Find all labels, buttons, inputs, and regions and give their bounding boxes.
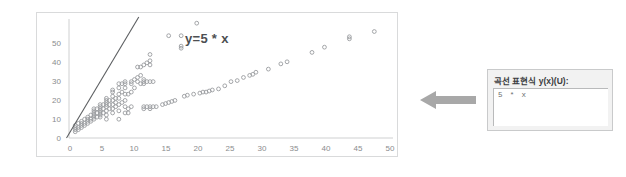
- curve-expression-panel: 곡선 표현식 y(x)(U): 5 * x: [487, 69, 613, 131]
- scatter-point: [195, 21, 199, 25]
- x-tick-label: 15: [156, 144, 176, 153]
- scatter-point: [229, 80, 233, 84]
- scatter-point: [192, 92, 196, 96]
- scatter-point: [266, 67, 270, 71]
- x-tick-label: 35: [284, 144, 304, 153]
- scatter-point: [167, 34, 171, 38]
- scatter-point: [129, 90, 133, 94]
- y-tick-label: 20: [43, 96, 61, 105]
- reference-line: [67, 17, 139, 138]
- x-tick-label: 5: [92, 144, 112, 153]
- x-tick-label: 0: [60, 144, 80, 153]
- scatter-point: [310, 51, 314, 55]
- scatter-point: [148, 63, 152, 67]
- scatter-point: [123, 86, 127, 90]
- y-tick-label: 50: [43, 39, 61, 48]
- scatter-point: [223, 84, 227, 88]
- curve-expression-label: 곡선 표현식 y(x)(U):: [494, 74, 568, 86]
- y-tick-label: 30: [43, 77, 61, 86]
- x-tick-label: 10: [124, 144, 144, 153]
- scatter-point: [179, 34, 183, 38]
- scatter-point: [148, 59, 152, 63]
- scatter-point: [117, 86, 121, 90]
- x-tick-label: 20: [188, 144, 208, 153]
- scatter-point: [242, 76, 246, 80]
- scatter-point: [104, 113, 108, 117]
- y-tick-label: 40: [43, 58, 61, 67]
- scatter-point: [148, 53, 152, 57]
- scatter-point: [123, 99, 127, 103]
- scatter-point: [217, 87, 221, 91]
- scatter-point: [139, 73, 143, 77]
- y-tick-label: 10: [43, 115, 61, 124]
- scatter-point: [372, 30, 376, 34]
- scatter-point: [133, 86, 137, 90]
- x-tick-label: 25: [220, 144, 240, 153]
- scatter-point: [117, 117, 121, 121]
- scatter-point: [279, 62, 283, 66]
- scatter-point: [323, 45, 327, 49]
- arrow-left-icon: [420, 88, 478, 112]
- scatter-point: [285, 60, 289, 64]
- scatter-chart-panel: 50 40 30 20 10 0 0 5 10 15 20 25 30 35 4…: [36, 12, 398, 157]
- scatter-point: [235, 79, 239, 83]
- curve-expression-input[interactable]: 5 * x: [493, 88, 608, 126]
- x-tick-label: 30: [252, 144, 272, 153]
- formula-annotation-label: y=5 * x: [185, 31, 229, 46]
- x-tick-label: 45: [348, 144, 368, 153]
- scatter-point: [254, 70, 258, 74]
- x-tick-label: 50: [380, 144, 400, 153]
- scatter-point: [129, 105, 133, 109]
- scatter-point: [117, 109, 121, 113]
- y-tick-label: 0: [43, 134, 61, 143]
- scatter-point: [111, 111, 115, 115]
- x-tick-label: 40: [316, 144, 336, 153]
- scatter-point: [104, 117, 108, 121]
